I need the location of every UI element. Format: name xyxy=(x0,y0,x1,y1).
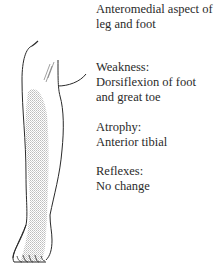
atrophy-line-1: Anterior tibial xyxy=(96,135,167,150)
weakness-section: Weakness: Dorsiflexion of foot and great… xyxy=(96,60,196,105)
atrophy-label: Atrophy: xyxy=(96,120,167,135)
leg-illustration xyxy=(0,0,95,272)
weakness-label: Weakness: xyxy=(96,60,196,75)
weakness-line-1: Dorsiflexion of foot xyxy=(96,75,196,90)
reflexes-section: Reflexes: No change xyxy=(96,164,150,194)
caption-title-line-2: leg and foot xyxy=(96,17,213,32)
atrophy-section: Atrophy: Anterior tibial xyxy=(96,120,167,150)
weakness-line-2: and great toe xyxy=(96,90,196,105)
caption-title: Anteromedial aspect of leg and foot xyxy=(96,2,213,32)
reflexes-line-1: No change xyxy=(96,179,150,194)
reflexes-label: Reflexes: xyxy=(96,164,150,179)
caption-title-line-1: Anteromedial aspect of xyxy=(96,2,213,17)
sensory-area-shading xyxy=(20,89,49,262)
